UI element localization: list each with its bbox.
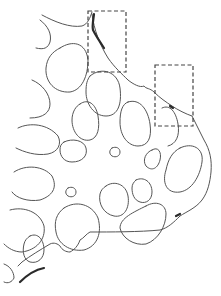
thickened-edge (176, 214, 180, 216)
lumen (120, 101, 151, 146)
lumen (162, 107, 179, 146)
lumen (12, 167, 54, 200)
lumen-partial (4, 264, 14, 283)
roi-box-2 (155, 65, 193, 126)
thickened-edge (93, 14, 104, 48)
tissue-tracing (0, 0, 221, 296)
lumen (72, 102, 99, 141)
lumen-small (110, 147, 120, 157)
tissue-outer-boundary (18, 12, 211, 266)
lumen (144, 149, 160, 169)
lumen (55, 204, 99, 250)
lumen-partial (30, 80, 50, 118)
lumen (165, 146, 203, 193)
lumen-small (66, 187, 76, 197)
lumen (23, 235, 44, 262)
thickened-edge (20, 268, 44, 282)
lumen (86, 71, 120, 116)
lumen (60, 140, 86, 162)
lumen (132, 179, 152, 203)
tissue-left-edge (36, 20, 51, 49)
diagram-canvas (0, 0, 221, 296)
lumen (100, 183, 129, 216)
lumen (16, 125, 60, 155)
lumen (46, 44, 88, 93)
